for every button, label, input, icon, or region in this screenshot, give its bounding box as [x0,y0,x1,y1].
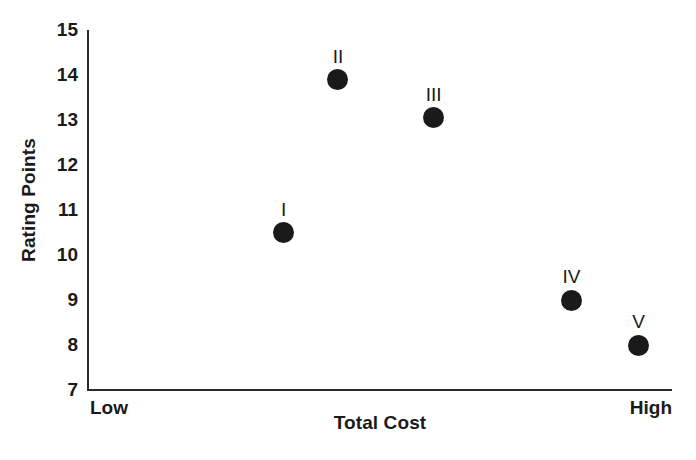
y-axis-tick-value: 9 [44,290,78,309]
y-axis-tick-value: 14 [44,65,78,84]
y-axis-tick-value: 12 [44,155,78,174]
data-point-label: IV [563,266,581,288]
x-axis-line [87,389,672,391]
data-point-label: V [632,311,645,333]
data-point-marker [561,290,582,311]
data-point-label: III [426,84,442,106]
y-axis-tick-label: 14 [44,65,78,85]
y-axis-tick-label: 7 [44,380,78,400]
y-axis-tick-value: 11 [44,200,78,219]
y-axis-line [87,30,89,391]
y-axis-tick-label: 15 [44,20,78,40]
y-axis-tick-label: 9 [44,290,78,310]
data-point-marker [423,107,444,128]
y-axis-tick-label: 10 [44,245,78,265]
data-point-marker [273,222,294,243]
data-point-marker [628,335,649,356]
y-axis-tick-value: 15 [44,20,78,39]
y-axis-tick-value: 13 [44,110,78,129]
y-axis-title: Rating Points [16,100,42,300]
data-point-label: I [281,199,286,221]
y-axis-tick-label: 11 [44,200,78,220]
y-axis-tick-label: 12 [44,155,78,175]
y-axis-tick-label: 13 [44,110,78,130]
y-axis-tick-value: 7 [44,380,78,399]
y-axis-tick-value: 10 [44,245,78,264]
data-point-marker [327,69,348,90]
y-axis-tick-label: 8 [44,335,78,355]
scatter-chart: Rating Points 151413121110987 IIIIIIIVV … [0,0,696,460]
x-axis-title: Total Cost [88,412,672,434]
data-point-label: II [333,46,344,68]
y-axis-tick-value: 8 [44,335,78,354]
